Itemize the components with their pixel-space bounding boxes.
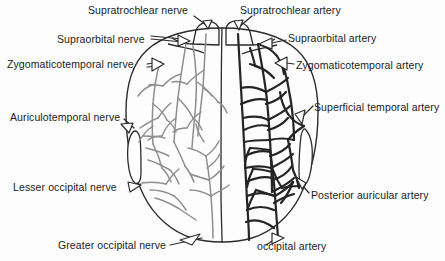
label-supratrochlear-nerve: Supratrochlear nerve	[88, 4, 188, 16]
label-occipital-artery: occipital artery	[257, 240, 326, 252]
label-superficial-temporal-artery: Superficial temporal artery	[314, 101, 439, 113]
label-supraorbital-artery: Supraorbital artery	[288, 32, 376, 44]
label-lesser-occipital-nerve: Lesser occipital nerve	[13, 181, 117, 193]
label-zygomaticotemporal-artery: Zygomaticotemporal artery	[296, 59, 423, 71]
midline-sagittal	[221, 28, 222, 242]
right-ear	[299, 129, 312, 185]
label-greater-occipital-nerve: Greater occipital nerve	[58, 239, 166, 251]
label-zygomaticotemporal-nerve: Zygomaticotemporal nerve	[7, 58, 134, 70]
artery-network-right	[238, 34, 304, 240]
label-supratrochlear-artery: Supratrochlear artery	[240, 4, 341, 16]
label-auriculotemporal-nerve: Auriculotemporal nerve	[10, 111, 120, 123]
left-ear	[128, 131, 141, 183]
leader-lines	[121, 16, 313, 245]
label-posterior-auricular-artery: Posterior auricular artery	[311, 189, 429, 201]
figure-canvas: Supratrochlear nerve Supraorbital nerve …	[0, 0, 445, 261]
label-supraorbital-nerve: Supraorbital nerve	[57, 33, 145, 45]
